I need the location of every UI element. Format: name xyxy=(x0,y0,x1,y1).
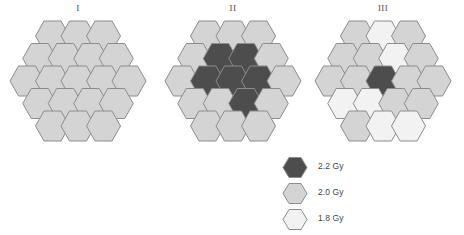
legend-hex-icon xyxy=(283,184,307,204)
legend-row-low: 1.8 Gy xyxy=(282,208,392,232)
hex-cluster-III xyxy=(308,16,458,160)
panel-III: III xyxy=(308,0,458,160)
panel-II: II xyxy=(158,0,308,160)
legend-label-1-8-gy: 1.8 Gy xyxy=(318,213,344,223)
panel-III-title: III xyxy=(308,3,458,13)
legend-hex-icon xyxy=(283,210,307,230)
dose-map-figure: I II III 2.2 Gy 2.0 Gy 1.8 Gy xyxy=(0,0,464,235)
hex-cluster-II xyxy=(158,16,308,160)
legend-swatch-2-2-gy xyxy=(282,156,308,179)
legend-label-2-0-gy: 2.0 Gy xyxy=(318,187,344,197)
panel-I: I xyxy=(3,0,153,160)
legend-row-high: 2.2 Gy xyxy=(282,156,392,180)
legend-swatch-2-0-gy xyxy=(282,182,308,205)
legend-swatch-1-8-gy xyxy=(282,208,308,231)
legend-hex-icon xyxy=(283,158,307,178)
legend-label-2-2-gy: 2.2 Gy xyxy=(318,161,344,171)
panel-I-title: I xyxy=(3,3,153,13)
legend-row-medium: 2.0 Gy xyxy=(282,182,392,206)
dose-legend: 2.2 Gy 2.0 Gy 1.8 Gy xyxy=(282,156,392,232)
panel-II-title: II xyxy=(158,3,308,13)
hex-cluster-I xyxy=(3,16,153,160)
